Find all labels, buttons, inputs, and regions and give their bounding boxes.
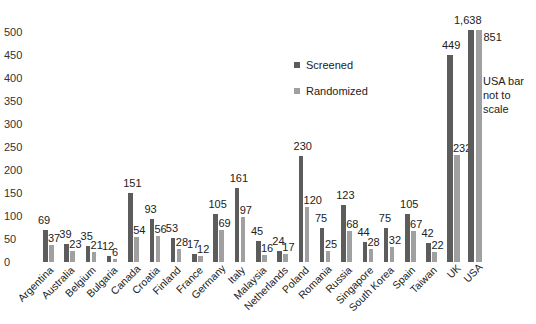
- bar-randomized: [262, 255, 267, 262]
- value-label-screened: 161: [230, 172, 248, 184]
- bar-randomized: [198, 256, 203, 262]
- x-axis-label: USA: [461, 264, 482, 285]
- bar-chart: 0501001502002503003504004505006937Argent…: [0, 0, 536, 324]
- y-tick-label: 500: [4, 26, 34, 38]
- bar-randomized: [411, 231, 416, 262]
- y-tick-label: 150: [4, 187, 34, 199]
- value-label-randomized: 32: [389, 234, 401, 246]
- y-tick-label: 50: [4, 233, 34, 245]
- bar-screened: [43, 230, 48, 262]
- value-label-screened: 105: [400, 198, 418, 210]
- note-line: scale: [483, 102, 533, 116]
- value-label-randomized: 54: [133, 224, 145, 236]
- value-label-screened: 123: [336, 189, 354, 201]
- bar-randomized: [476, 30, 482, 262]
- bar-screened: [341, 205, 346, 262]
- x-axis-label: UK: [444, 264, 461, 281]
- legend: Screened Randomized: [294, 58, 368, 110]
- bar-screened: [192, 254, 197, 262]
- y-tick-label: 450: [4, 49, 34, 61]
- bar-randomized: [347, 231, 352, 262]
- swatch-screened: [294, 62, 300, 68]
- bar-randomized: [390, 247, 395, 262]
- bar-randomized: [49, 245, 54, 262]
- legend-label-randomized: Randomized: [306, 85, 368, 97]
- note-line: USA bar: [483, 74, 533, 88]
- value-label-randomized: 17: [282, 241, 294, 253]
- bar-randomized: [113, 259, 118, 262]
- bar-screened: [384, 228, 389, 263]
- value-label-randomized: 6: [112, 246, 118, 258]
- bar-randomized: [70, 251, 75, 262]
- value-label-randomized: 28: [368, 236, 380, 248]
- bar-randomized: [432, 252, 437, 262]
- bar-screened: [363, 242, 368, 262]
- bar-randomized: [454, 155, 460, 262]
- bar-screened: [256, 241, 261, 262]
- legend-label-screened: Screened: [306, 59, 353, 71]
- bar-randomized: [134, 237, 139, 262]
- note-line: not to: [483, 88, 533, 102]
- bar-screened: [468, 30, 474, 262]
- bar-randomized: [241, 217, 246, 262]
- value-label-randomized: 851: [484, 31, 502, 43]
- bar-randomized: [283, 254, 288, 262]
- bar-screened: [447, 55, 453, 262]
- value-label-screened: 1,638: [454, 14, 482, 26]
- y-tick-label: 400: [4, 72, 34, 84]
- swatch-randomized: [294, 88, 300, 94]
- bar-randomized: [305, 207, 310, 262]
- bar-randomized: [369, 249, 374, 262]
- bar-randomized: [219, 230, 224, 262]
- bar-screened: [86, 246, 91, 262]
- value-label-randomized: 25: [325, 238, 337, 250]
- y-tick-label: 300: [4, 118, 34, 130]
- value-label-randomized: 120: [304, 194, 322, 206]
- bar-screened: [128, 193, 133, 262]
- legend-item-randomized: Randomized: [294, 84, 368, 98]
- y-tick-label: 200: [4, 164, 34, 176]
- y-tick-label: 0: [4, 256, 34, 268]
- y-tick-label: 350: [4, 95, 34, 107]
- bar-randomized: [326, 251, 331, 263]
- value-label-screened: 53: [166, 222, 178, 234]
- bar-screened: [171, 238, 176, 262]
- bar-screened: [213, 214, 218, 262]
- legend-item-screened: Screened: [294, 58, 368, 72]
- value-label-screened: 42: [421, 227, 433, 239]
- scale-note: USA bar not to scale: [483, 74, 533, 116]
- value-label-screened: 45: [251, 225, 263, 237]
- value-label-screened: 230: [294, 140, 312, 152]
- bar-screened: [150, 219, 155, 262]
- y-tick-label: 250: [4, 141, 34, 153]
- bar-randomized: [92, 252, 97, 262]
- bar-screened: [107, 256, 112, 262]
- value-label-screened: 69: [38, 214, 50, 226]
- bar-screened: [320, 228, 325, 263]
- value-label-screened: 105: [208, 198, 226, 210]
- bar-screened: [426, 243, 431, 262]
- bar-screened: [235, 188, 240, 262]
- bar-screened: [299, 156, 304, 262]
- bar-randomized: [156, 236, 161, 262]
- value-label-screened: 93: [145, 203, 157, 215]
- bar-screened: [277, 251, 282, 262]
- value-label-randomized: 69: [218, 217, 230, 229]
- value-label-screened: 75: [315, 212, 327, 224]
- bar-randomized: [177, 249, 182, 262]
- value-label-randomized: 22: [431, 239, 443, 251]
- y-tick-label: 100: [4, 210, 34, 222]
- value-label-screened: 449: [442, 39, 460, 51]
- bar-screened: [405, 214, 410, 262]
- value-label-screened: 75: [379, 212, 391, 224]
- value-label-randomized: 12: [197, 243, 209, 255]
- value-label-screened: 151: [123, 177, 141, 189]
- bar-screened: [64, 244, 69, 262]
- value-label-randomized: 97: [240, 204, 252, 216]
